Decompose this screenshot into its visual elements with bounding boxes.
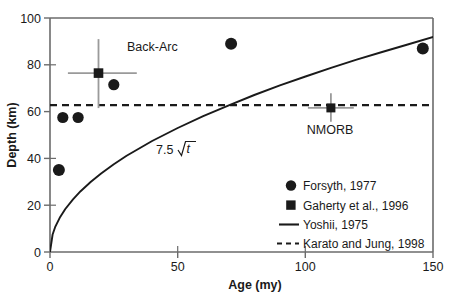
x-tick-label-0: 0 xyxy=(47,260,54,274)
curve-sqrt-variable-label: t xyxy=(187,142,191,156)
curve-coefficient-label: 7.5 xyxy=(156,143,173,157)
x-axis-title: Age (my) xyxy=(228,278,281,292)
back-arc-square-marker xyxy=(94,68,104,78)
forsyth-point-5 xyxy=(225,38,237,50)
legend-square-marker-icon xyxy=(286,200,295,209)
chart-figure: 100 80 60 40 20 0 0 50 100 150 Age (my) … xyxy=(0,0,459,298)
nmorb-square-marker xyxy=(326,103,335,112)
y-axis-inner-ticks xyxy=(50,65,56,205)
legend-label-yoshii: Yoshii, 1975 xyxy=(303,218,368,232)
nmorb-label: NMORB xyxy=(307,123,354,137)
y-tick-label-20: 20 xyxy=(27,199,41,213)
forsyth-point-3 xyxy=(73,112,84,123)
depth-vs-age-scatter-chart: 100 80 60 40 20 0 0 50 100 150 Age (my) … xyxy=(0,0,459,298)
back-arc-label: Back-Arc xyxy=(127,40,178,54)
y-axis-ticks xyxy=(44,18,50,252)
curve-equation-annotation: 7.5 t xyxy=(156,142,196,158)
y-axis-title: Depth (km) xyxy=(5,102,19,167)
forsyth-point-6 xyxy=(417,42,429,54)
legend-label-gaherty: Gaherty et al., 1996 xyxy=(303,199,409,213)
yoshii-curve xyxy=(50,37,433,252)
x-tick-label-100: 100 xyxy=(295,260,316,274)
y-tick-labels: 100 80 60 40 20 0 xyxy=(20,12,41,260)
y-tick-label-80: 80 xyxy=(27,58,41,72)
y-tick-label-0: 0 xyxy=(34,246,41,260)
yoshii-curve-series xyxy=(50,37,433,252)
forsyth-point-2 xyxy=(57,112,68,123)
y-tick-label-60: 60 xyxy=(27,105,41,119)
legend-label-forsyth: Forsyth, 1977 xyxy=(303,179,377,193)
forsyth-scatter-series xyxy=(53,38,429,176)
y-tick-label-40: 40 xyxy=(27,152,41,166)
forsyth-point-4 xyxy=(108,79,119,90)
y-tick-label-100: 100 xyxy=(20,12,41,26)
legend-circle-marker-icon xyxy=(286,180,296,190)
forsyth-point-1 xyxy=(53,164,65,176)
x-tick-labels: 0 50 100 150 xyxy=(47,260,444,274)
x-tick-label-50: 50 xyxy=(171,260,185,274)
x-tick-label-150: 150 xyxy=(423,260,444,274)
nmorb-errorbar-group xyxy=(308,93,354,121)
chart-legend: Forsyth, 1977 Gaherty et al., 1996 Yoshi… xyxy=(277,179,425,251)
legend-label-karato: Karato and Jung, 1998 xyxy=(303,237,425,251)
